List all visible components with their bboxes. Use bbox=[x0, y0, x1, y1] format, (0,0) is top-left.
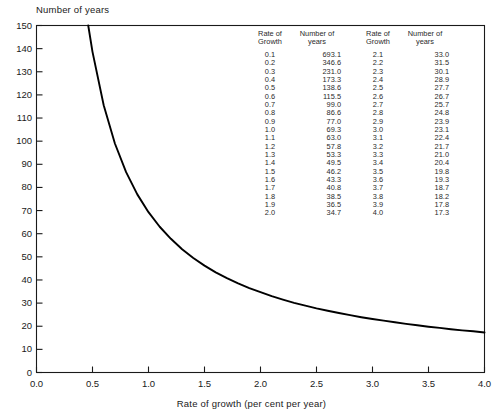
cell-number-years: 26.7 bbox=[401, 93, 463, 101]
y-axis-ticks bbox=[37, 26, 43, 373]
cell-number-years: 40.8 bbox=[293, 184, 355, 192]
table-row: 0.4173.32.428.9 bbox=[247, 76, 463, 84]
table-row: 0.799.02.725.7 bbox=[247, 101, 463, 109]
x-axis-title: Rate of growth (per cent per year) bbox=[0, 398, 503, 409]
cell-number-years: 21.7 bbox=[401, 143, 463, 151]
y-tick-label: 50 bbox=[2, 251, 32, 262]
table-row: 1.069.33.023.1 bbox=[247, 126, 463, 134]
table-row: 1.643.33.619.3 bbox=[247, 176, 463, 184]
cell-rate-growth: 2.0 bbox=[247, 209, 293, 217]
y-tick-label: 100 bbox=[2, 135, 32, 146]
cell-number-years: 25.7 bbox=[401, 101, 463, 109]
x-tick-label: 4.0 bbox=[465, 378, 503, 389]
y-tick-label: 60 bbox=[2, 228, 32, 239]
cell-number-years: 63.0 bbox=[293, 134, 355, 142]
y-tick-label: 30 bbox=[2, 297, 32, 308]
header-rate-of-growth-1: Rate of Growth bbox=[247, 30, 293, 51]
table-row: 1.353.33.321.0 bbox=[247, 151, 463, 159]
cell-number-years: 23.9 bbox=[401, 118, 463, 126]
cell-number-years: 18.2 bbox=[401, 193, 463, 201]
cell-number-years: 33.0 bbox=[401, 51, 463, 59]
cell-number-years: 24.8 bbox=[401, 109, 463, 117]
x-tick-label: 1.5 bbox=[185, 378, 225, 389]
cell-number-years: 115.5 bbox=[293, 93, 355, 101]
y-tick-label: 120 bbox=[2, 89, 32, 100]
y-tick-label: 130 bbox=[2, 66, 32, 77]
table-row: 0.3231.02.330.1 bbox=[247, 68, 463, 76]
x-tick-label: 2.5 bbox=[297, 378, 337, 389]
cell-number-years: 30.1 bbox=[401, 68, 463, 76]
cell-number-years: 23.1 bbox=[401, 126, 463, 134]
y-tick-label: 0 bbox=[2, 367, 32, 378]
cell-number-years: 57.8 bbox=[293, 143, 355, 151]
y-tick-label: 140 bbox=[2, 43, 32, 54]
cell-number-years: 18.7 bbox=[401, 184, 463, 192]
cell-number-years: 34.7 bbox=[293, 209, 355, 217]
cell-number-years: 19.3 bbox=[401, 176, 463, 184]
header-rate-of-growth-2: Rate of Growth bbox=[355, 30, 401, 51]
cell-number-years: 27.7 bbox=[401, 84, 463, 92]
table-row: 0.977.02.923.9 bbox=[247, 118, 463, 126]
cell-number-years: 99.0 bbox=[293, 101, 355, 109]
cell-number-years: 77.0 bbox=[293, 118, 355, 126]
cell-number-years: 46.2 bbox=[293, 168, 355, 176]
table-row: 1.449.53.420.4 bbox=[247, 159, 463, 167]
doubling-time-table: Rate of Growth Number of years Rate of G… bbox=[247, 30, 463, 218]
cell-number-years: 43.3 bbox=[293, 176, 355, 184]
table-body: 0.1693.12.133.00.2346.62.231.50.3231.02.… bbox=[247, 51, 463, 218]
cell-number-years: 17.3 bbox=[401, 209, 463, 217]
table-row: 0.5138.62.527.7 bbox=[247, 84, 463, 92]
y-tick-label: 110 bbox=[2, 112, 32, 123]
cell-number-years: 86.6 bbox=[293, 109, 355, 117]
cell-number-years: 49.5 bbox=[293, 159, 355, 167]
cell-number-years: 53.3 bbox=[293, 151, 355, 159]
x-tick-label: 1.0 bbox=[129, 378, 169, 389]
header-years-line2: years bbox=[293, 38, 341, 46]
table-row: 1.936.53.917.8 bbox=[247, 201, 463, 209]
cell-number-years: 69.3 bbox=[293, 126, 355, 134]
x-tick-label: 3.0 bbox=[353, 378, 393, 389]
x-axis-ticks bbox=[37, 367, 485, 373]
y-tick-label: 10 bbox=[2, 343, 32, 354]
table-row: 0.2346.62.231.5 bbox=[247, 59, 463, 67]
cell-number-years: 28.9 bbox=[401, 76, 463, 84]
table-row: 1.163.03.122.4 bbox=[247, 134, 463, 142]
y-tick-label: 20 bbox=[2, 320, 32, 331]
header-rate-line2: Growth bbox=[247, 38, 293, 46]
table-row: 1.257.83.221.7 bbox=[247, 143, 463, 151]
header-rate-line2: Growth bbox=[355, 38, 401, 46]
x-tick-label: 2.0 bbox=[241, 378, 281, 389]
y-tick-label: 150 bbox=[2, 20, 32, 31]
table-row: 1.838.53.818.2 bbox=[247, 193, 463, 201]
table-row: 0.6115.52.626.7 bbox=[247, 93, 463, 101]
header-years-line2: years bbox=[401, 38, 449, 46]
x-tick-label: 0.0 bbox=[17, 378, 57, 389]
cell-number-years: 36.5 bbox=[293, 201, 355, 209]
x-tick-label: 3.5 bbox=[409, 378, 449, 389]
table-row: 2.034.74.017.3 bbox=[247, 209, 463, 217]
table-row: 0.1693.12.133.0 bbox=[247, 51, 463, 59]
cell-number-years: 19.8 bbox=[401, 168, 463, 176]
cell-number-years: 21.0 bbox=[401, 151, 463, 159]
table-row: 0.886.62.824.8 bbox=[247, 109, 463, 117]
table-header-row: Rate of Growth Number of years Rate of G… bbox=[247, 30, 463, 51]
x-tick-label: 0.5 bbox=[73, 378, 113, 389]
cell-number-years: 22.4 bbox=[401, 134, 463, 142]
y-tick-label: 40 bbox=[2, 274, 32, 285]
header-number-of-years-2: Number of years bbox=[401, 30, 463, 51]
y-tick-label: 90 bbox=[2, 158, 32, 169]
table-row: 1.740.83.718.7 bbox=[247, 184, 463, 192]
y-tick-label: 70 bbox=[2, 205, 32, 216]
cell-number-years: 38.5 bbox=[293, 193, 355, 201]
table-header: Rate of Growth Number of years Rate of G… bbox=[247, 30, 463, 51]
cell-number-years: 20.4 bbox=[401, 159, 463, 167]
cell-number-years: 17.8 bbox=[401, 201, 463, 209]
y-tick-label: 80 bbox=[2, 181, 32, 192]
cell-rate-growth: 4.0 bbox=[355, 209, 401, 217]
chart-figure: Number of years 010203040506070809010011… bbox=[0, 0, 503, 417]
header-number-of-years-1: Number of years bbox=[293, 30, 355, 51]
cell-number-years: 31.5 bbox=[401, 59, 463, 67]
table-row: 1.546.23.519.8 bbox=[247, 168, 463, 176]
